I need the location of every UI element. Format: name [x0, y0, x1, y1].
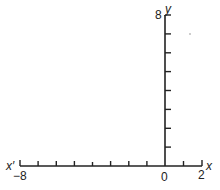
x-tick-label-min: −8 — [13, 169, 27, 183]
x-tick-label-max: 2 — [198, 168, 205, 182]
scan-speck — [189, 33, 190, 34]
y-axis-ticks — [165, 15, 171, 147]
y-axis-label: y — [164, 2, 172, 16]
y-tick-label-max: 8 — [155, 8, 162, 22]
x-tick-label-origin: 0 — [161, 170, 168, 184]
x-axis-label: x — [205, 159, 213, 173]
x-axis-ticks — [20, 160, 202, 166]
coordinate-axes-diagram: x′ x y −8 0 2 8 — [0, 0, 220, 190]
